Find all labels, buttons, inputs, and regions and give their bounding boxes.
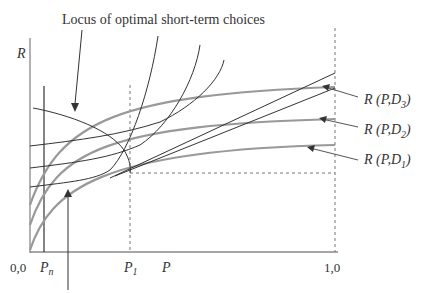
label-r-d1: R (P,D1) [363, 152, 411, 170]
curve-r-d2 [30, 119, 335, 225]
label-arrow-d1 [310, 148, 358, 160]
x-end-label: 1,0 [324, 260, 340, 275]
tangent-line-2 [115, 88, 335, 176]
y-axis-label: R [16, 46, 26, 61]
pn-label: Pn [39, 260, 54, 277]
label-arrow-d2 [322, 119, 358, 127]
x-axis-label: P [161, 260, 171, 275]
iso-curve-3 [30, 60, 224, 146]
diagram-title: Locus of optimal short-term choices [62, 12, 265, 27]
origin-label: 0,0 [10, 260, 26, 275]
iso-curve-2 [30, 45, 200, 168]
locus-arrow-line [75, 30, 82, 104]
p1-label: P1 [123, 260, 138, 277]
label-arrow-d3 [325, 87, 358, 97]
label-r-d3: R (P,D3) [363, 92, 411, 110]
diagram-canvas: Locus of optimal short-term choices R (P… [0, 0, 422, 293]
tangent-line-1 [110, 73, 335, 178]
locus-arrowhead-icon [71, 103, 79, 112]
label-r-d2: R (P,D2) [363, 122, 411, 140]
